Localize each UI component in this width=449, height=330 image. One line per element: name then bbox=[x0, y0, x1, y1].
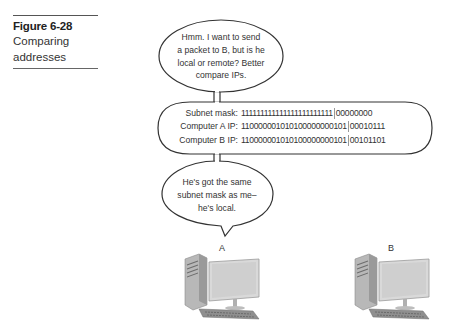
computer-b-label: B bbox=[388, 243, 394, 253]
comparison-row-computer-a: Computer A IP: 110000001010100000000101 … bbox=[170, 120, 386, 133]
bubble-top-line-3: local or remote? Better bbox=[165, 57, 277, 70]
host-bits: 00101101 bbox=[350, 134, 386, 147]
bubble-top-line-4: compare IPs. bbox=[165, 69, 277, 82]
network-host-divider bbox=[334, 108, 335, 119]
bubble-top-line-1: Hmm. I want to send bbox=[165, 31, 277, 44]
speech-bubble-bottom-text: He's got the same subnet mask as me– he'… bbox=[167, 176, 267, 214]
speech-bubble-top-text: Hmm. I want to send a packet to B, but i… bbox=[165, 31, 277, 82]
host-bits: 00010111 bbox=[350, 120, 385, 133]
host-bits: 00000000 bbox=[336, 107, 373, 120]
subnet-comparison-table: Subnet mask: 111111111111111111111111 00… bbox=[170, 107, 386, 147]
computer-b-icon bbox=[355, 254, 429, 319]
comparison-row-computer-b: Computer B IP: 110000001010100000000101 … bbox=[170, 134, 386, 147]
bubble-bottom-line-1: He's got the same bbox=[167, 176, 267, 189]
row-label: Computer A IP: bbox=[170, 120, 241, 133]
row-label: Computer B IP: bbox=[170, 134, 241, 147]
network-host-divider bbox=[348, 135, 349, 146]
bubble-bottom-line-3: he's local. bbox=[167, 202, 267, 215]
network-bits: 111111111111111111111111 bbox=[241, 107, 333, 120]
bubble-bottom-line-2: subnet mask as me– bbox=[167, 189, 267, 202]
row-label: Subnet mask: bbox=[170, 107, 241, 120]
comparison-row-subnet-mask: Subnet mask: 111111111111111111111111 00… bbox=[170, 107, 386, 120]
computer-a-icon bbox=[185, 254, 259, 319]
computer-a-label: A bbox=[219, 243, 225, 253]
network-host-divider bbox=[348, 121, 349, 132]
network-bits: 110000001010100000000101 bbox=[241, 120, 347, 133]
bubble-top-line-2: a packet to B, but is he bbox=[165, 44, 277, 57]
network-bits: 110000001010100000000101 bbox=[241, 134, 347, 147]
